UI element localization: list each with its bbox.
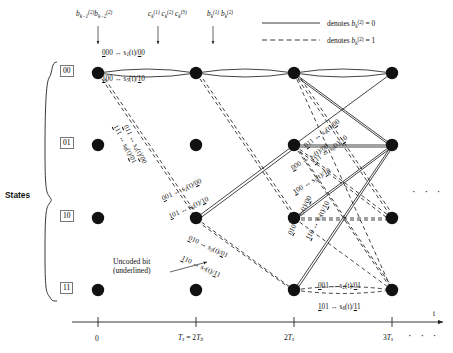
- node-s00-t2: [288, 67, 300, 79]
- node-s10-t3: [386, 212, 398, 224]
- node-s11-t0: [92, 284, 104, 296]
- uncoded-bit-pointer-arrow: [170, 262, 207, 272]
- node-s11-t2: [288, 284, 300, 296]
- trellis-figure: bk−1(2)bk−2(2) ck(1) ck(2) ck(3) bk(1) b…: [0, 0, 453, 353]
- node-s10-t0: [92, 212, 104, 224]
- node-s01-t2: [288, 139, 300, 151]
- node-s00-t0: [92, 67, 104, 79]
- node-s00-t3: [386, 67, 398, 79]
- node-s11-t3: [386, 284, 398, 296]
- node-s10-t1: [190, 212, 202, 224]
- top-annotation-arrows: [98, 26, 213, 44]
- states-brace: [45, 62, 57, 301]
- trellis-canvas: [0, 0, 453, 353]
- node-s11-t1: [190, 284, 202, 296]
- node-s00-t1: [190, 67, 202, 79]
- time-axis: [72, 317, 443, 327]
- node-s01-t1: [190, 139, 202, 151]
- node-s10-t2: [288, 212, 300, 224]
- node-s01-t0: [92, 139, 104, 151]
- node-s01-t3: [386, 139, 398, 151]
- legend-sample-lines: [262, 23, 320, 40]
